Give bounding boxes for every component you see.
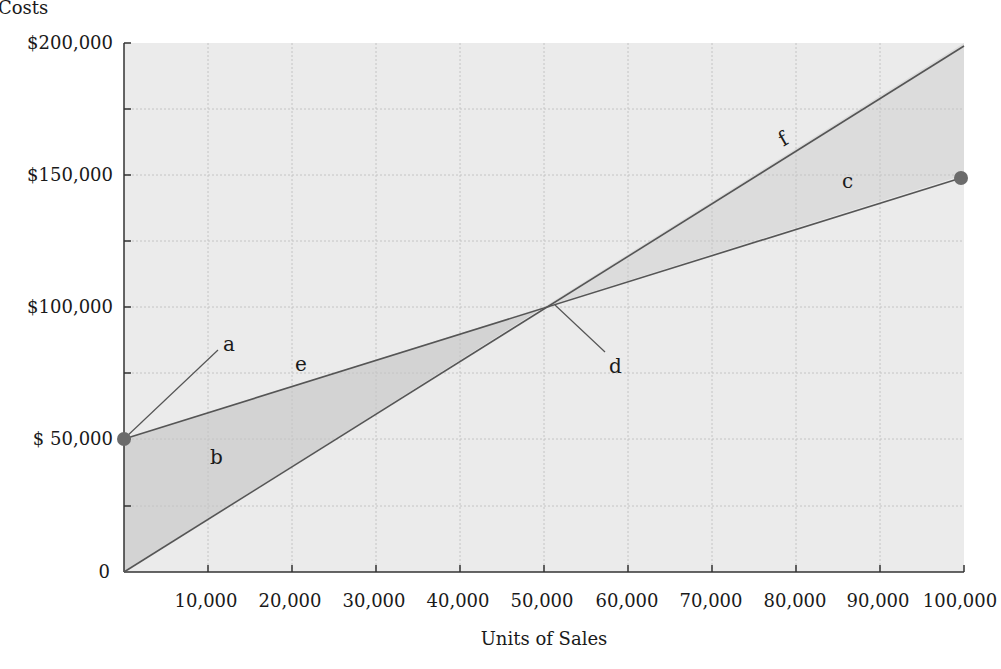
y-tick-label: 0 [99,561,110,582]
x-tick-label: 40,000 [427,590,490,611]
fixed-cost-marker [117,432,131,446]
x-tick-label: 60,000 [596,590,659,611]
x-tick-label: 30,000 [343,590,406,611]
breakeven-chart: Costs [0,0,1001,669]
x-tick-label: 50,000 [511,590,574,611]
x-tick-label: 10,000 [175,590,238,611]
annotation-b: b [210,445,223,469]
x-tick-label: 100,000 [923,590,997,611]
annotation-e: e [295,352,307,376]
annotation-a: a [223,332,235,356]
y-tick-label: $ 50,000 [33,428,113,449]
annotation-d: d [609,354,622,378]
x-tick-labels: 10,000 20,000 30,000 40,000 50,000 60,00… [175,590,998,611]
cost-end-marker [954,171,968,185]
x-tick-label: 20,000 [259,590,322,611]
y-tick-label: $100,000 [27,296,113,317]
x-tick-label: 80,000 [764,590,827,611]
annotation-c: c [842,169,853,193]
y-tick-labels: $200,000 $150,000 $100,000 $ 50,000 0 [27,32,113,582]
y-tick-label: $200,000 [27,32,113,53]
x-axis-title: Units of Sales [481,628,608,649]
y-axis-title: Costs [0,0,48,18]
x-tick-label: 90,000 [847,590,910,611]
x-tick-label: 70,000 [680,590,743,611]
y-tick-label: $150,000 [27,164,113,185]
